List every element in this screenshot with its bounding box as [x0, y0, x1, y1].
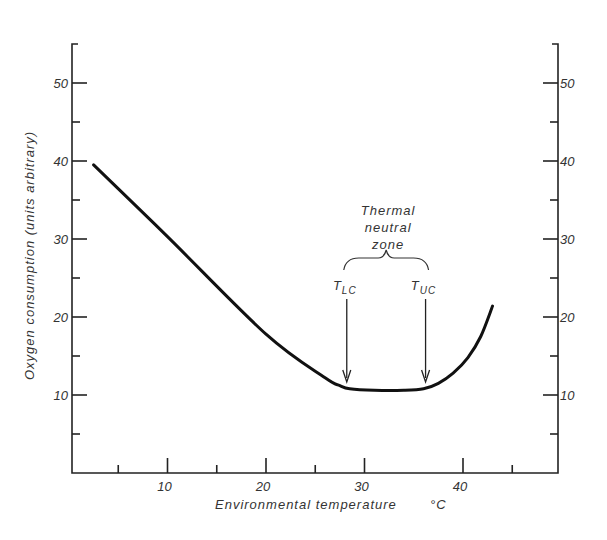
x-tick-label: 10 — [157, 479, 172, 494]
axes — [72, 44, 558, 473]
chart: 1020304050102030405010203040 Thermalneut… — [0, 0, 607, 540]
lower-critical-label: TLC — [333, 278, 357, 296]
right-tick-label: 30 — [560, 232, 575, 247]
annotations: ThermalneutralzoneTLCTUC — [333, 203, 436, 382]
y-tick-label: 50 — [54, 76, 69, 91]
right-tick-label: 20 — [559, 310, 575, 325]
series — [94, 165, 493, 391]
series-line — [94, 165, 493, 391]
y-axis-title: Oxygen consumption (units arbitrary) — [22, 131, 37, 380]
right-tick-label: 10 — [560, 388, 575, 403]
ticks: 1020304050102030405010203040 — [53, 76, 576, 494]
x-tick-label: 40 — [453, 479, 468, 494]
y-tick-label: 10 — [54, 388, 69, 403]
upper-critical-label: TUC — [411, 278, 436, 296]
right-tick-label: 50 — [560, 76, 575, 91]
x-tick-label: 20 — [255, 479, 271, 494]
y-tick-label: 20 — [53, 310, 69, 325]
x-tick-label: 30 — [354, 479, 369, 494]
x-axis-unit: °C — [430, 497, 447, 512]
brace — [344, 250, 429, 270]
x-axis-title: Environmental temperature — [215, 497, 397, 512]
axis-frame — [72, 44, 558, 473]
y-tick-label: 30 — [54, 232, 69, 247]
zone-label-line: zone — [371, 237, 404, 252]
zone-label-line: Thermal — [361, 203, 416, 218]
y-tick-label: 40 — [54, 154, 69, 169]
zone-label-line: neutral — [365, 220, 412, 235]
right-tick-label: 40 — [560, 154, 575, 169]
